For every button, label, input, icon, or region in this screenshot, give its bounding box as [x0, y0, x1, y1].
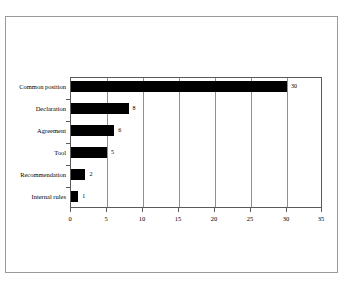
x-axis-tick-label: 30	[276, 214, 296, 223]
gridline	[287, 78, 288, 207]
gridline	[215, 78, 216, 207]
bar	[71, 147, 107, 158]
plot-area: 30 8 6 5 2 1	[70, 77, 322, 208]
x-axis-tick	[142, 208, 143, 212]
x-axis-tick-label: 35	[311, 214, 331, 223]
x-axis-tick	[286, 208, 287, 212]
x-axis-tick	[70, 208, 71, 212]
x-axis-tick-label: 10	[132, 214, 152, 223]
gridline	[179, 78, 180, 207]
bar-value-label: 8	[133, 103, 136, 114]
category-label: Recommendation	[20, 169, 66, 180]
category-label: Common position	[19, 81, 66, 92]
x-axis-tick-label: 0	[60, 214, 80, 223]
gridline	[107, 78, 108, 207]
bar	[71, 81, 287, 92]
bar	[71, 191, 78, 202]
x-axis-tick-label: 5	[96, 214, 116, 223]
bar	[71, 169, 85, 180]
category-label: Tool	[54, 147, 66, 158]
x-axis-tick-label: 20	[204, 214, 224, 223]
bar-value-label: 2	[89, 169, 92, 180]
gridline	[251, 78, 252, 207]
x-axis-tick	[106, 208, 107, 212]
chart-canvas: Common position Declaration Agreement To…	[0, 0, 346, 282]
x-axis-tick-label: 25	[240, 214, 260, 223]
category-label: Declaration	[36, 103, 66, 114]
x-axis-tick	[321, 208, 322, 212]
category-label: Agreement	[37, 125, 66, 136]
bar-value-label: 1	[82, 191, 85, 202]
category-label: Internal rules	[32, 191, 66, 202]
bar	[71, 125, 114, 136]
y-axis-category-labels: Common position Declaration Agreement To…	[8, 77, 66, 208]
x-axis-tick	[250, 208, 251, 212]
bar-value-label: 6	[118, 125, 121, 136]
bar-value-label: 5	[111, 147, 114, 158]
gridline	[143, 78, 144, 207]
x-axis-tick	[178, 208, 179, 212]
bar	[71, 103, 129, 114]
bar-value-label: 30	[291, 81, 297, 92]
x-axis-tick-label: 15	[168, 214, 188, 223]
x-axis-tick	[214, 208, 215, 212]
